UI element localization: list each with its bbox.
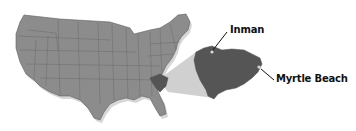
myrtle-beach-leader-line xyxy=(261,69,274,80)
us-map xyxy=(16,14,190,120)
map-figure: Inman Myrtle Beach xyxy=(0,0,356,131)
myrtle-beach-label: Myrtle Beach xyxy=(276,73,348,84)
myrtle-beach-marker xyxy=(257,65,260,68)
us-map-with-sc-inset xyxy=(0,0,356,131)
inman-label: Inman xyxy=(230,24,264,35)
inman-leader-line xyxy=(213,32,227,50)
inman-marker xyxy=(210,50,213,53)
